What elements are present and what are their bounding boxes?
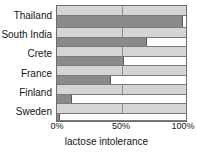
bar-row-crete: [57, 56, 186, 66]
bar-row-finland: [57, 94, 186, 104]
bar-row-south-india: [57, 37, 186, 47]
bar-row-sweden: [57, 113, 186, 121]
bar-row-france: [57, 75, 186, 85]
category-label-finland: Finland: [0, 88, 52, 98]
bar-fill-thailand: [57, 16, 183, 27]
category-label-south-india: South India: [0, 30, 52, 40]
bar-row-thailand: [57, 15, 186, 28]
plot-area: [56, 5, 187, 122]
lactose-intolerance-bar-chart: Thailand South India Crete France Finlan…: [0, 0, 197, 159]
bar-fill-crete: [57, 57, 124, 65]
category-label-crete: Crete: [0, 49, 52, 59]
category-label-sweden: Sweden: [0, 107, 52, 117]
x-axis-title: lactose intolerance: [0, 136, 197, 148]
x-axis-tick-labels: 0% 50% 100%: [56, 121, 187, 135]
category-label-france: France: [0, 69, 52, 79]
bar-fill-france: [57, 76, 111, 84]
x-tick-100: 100%: [171, 121, 194, 132]
category-label-thailand: Thailand: [0, 11, 52, 21]
x-tick-50: 50%: [112, 121, 130, 132]
x-tick-0: 0%: [50, 121, 63, 132]
bar-fill-south-india: [57, 38, 147, 46]
bar-fill-finland: [57, 95, 72, 103]
y-axis-category-labels: Thailand South India Crete France Finlan…: [0, 5, 54, 120]
bar-fill-sweden: [57, 114, 60, 120]
x-axis-title-text: lactose intolerance: [65, 136, 148, 148]
